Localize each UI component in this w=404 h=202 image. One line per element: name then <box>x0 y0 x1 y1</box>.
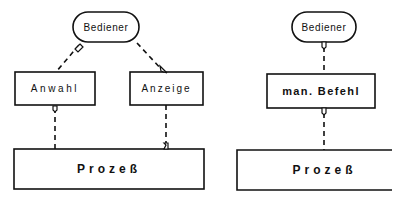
arrow-right-command-icon <box>322 108 326 115</box>
arrow-right-operator-icon <box>322 42 326 49</box>
left-display-label: Anzeige <box>130 72 203 105</box>
arrow-to-operator-icon <box>75 44 83 52</box>
right-operator-label: Bediener <box>292 12 356 42</box>
right-process-label: Prozeß <box>237 150 404 190</box>
left-operator-label: Bediener <box>73 12 139 42</box>
right-command-label: man. Befehl <box>267 74 375 108</box>
arrow-to-selection-icon <box>53 106 57 112</box>
left-selection-label: Anwahl <box>15 72 95 105</box>
left-process-label: Prozeß <box>14 149 204 189</box>
